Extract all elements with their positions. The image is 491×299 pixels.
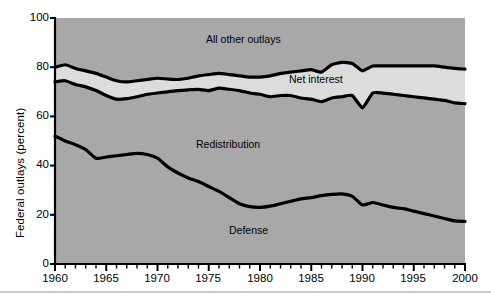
y-tick-label-80: 80 (27, 60, 49, 72)
y-tick-label-100: 100 (27, 11, 49, 23)
series-label-defense: Defense (229, 224, 268, 236)
x-tick-label-1980: 1980 (239, 272, 281, 284)
y-tick-label-20: 20 (27, 208, 49, 220)
y-tick-label-60: 60 (27, 109, 49, 121)
x-tick-label-1975: 1975 (187, 272, 229, 284)
x-tick-label-1965: 1965 (85, 272, 127, 284)
x-tick-label-1985: 1985 (290, 272, 332, 284)
y-axis-title: Federal outlays (percent) (14, 108, 26, 238)
series-label-all-other-outlays: All other outlays (206, 33, 281, 45)
chart-figure: Federal outlays (percent) 100 80 60 40 2… (0, 0, 491, 299)
figure-bottom-rule (0, 291, 491, 293)
y-tick-label-0: 0 (27, 257, 49, 269)
series-label-redistribution: Redistribution (196, 138, 260, 150)
x-tick-label-2000: 2000 (444, 272, 486, 284)
x-tick-label-1995: 1995 (392, 272, 434, 284)
x-tick-label-1990: 1990 (341, 272, 383, 284)
x-tick-label-1960: 1960 (34, 272, 76, 284)
y-tick-label-40: 40 (27, 158, 49, 170)
x-tick-label-1970: 1970 (136, 272, 178, 284)
series-label-net-interest: Net interest (289, 73, 343, 85)
